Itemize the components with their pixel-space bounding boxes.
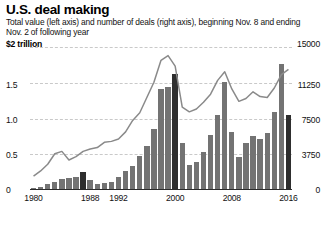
y2-axis-tick-3750: 3750 bbox=[302, 150, 320, 160]
chart-subtitle: Total value (left axis) and number of de… bbox=[6, 18, 306, 37]
page-title: U.S. deal making bbox=[6, 3, 321, 17]
chart-figure: U.S. deal making Total value (left axis)… bbox=[0, 0, 325, 227]
line-series bbox=[30, 47, 292, 190]
y2-axis-tick-0: 0 bbox=[315, 185, 320, 195]
plot-area-wrapper: $2 trillion 15000 1.5 1.0 0.5 0 11250 75… bbox=[4, 39, 321, 215]
y-axis-tick-0_5: 0.5 bbox=[6, 150, 17, 160]
y-axis-tick-1_0: 1.0 bbox=[6, 115, 17, 125]
y-axis-tick-1_5: 1.5 bbox=[6, 80, 17, 90]
x-axis-baseline bbox=[30, 189, 292, 190]
plot-area bbox=[30, 47, 292, 190]
x-axis-tick-1988: 1988 bbox=[81, 193, 99, 203]
y2-axis-top-label: 15000 bbox=[297, 39, 320, 49]
x-axis-tick-2000: 2000 bbox=[166, 193, 184, 203]
y2-axis-tick-11250: 11250 bbox=[298, 80, 320, 90]
y-axis-tick-0: 0 bbox=[6, 185, 11, 195]
x-axis-tick-1992: 1992 bbox=[109, 193, 127, 203]
x-axis-tick-2008: 2008 bbox=[223, 193, 241, 203]
y2-axis-tick-7500: 7500 bbox=[302, 115, 320, 125]
x-axis-tick-1980: 1980 bbox=[24, 193, 42, 203]
x-axis-tick-2016: 2016 bbox=[279, 193, 297, 203]
